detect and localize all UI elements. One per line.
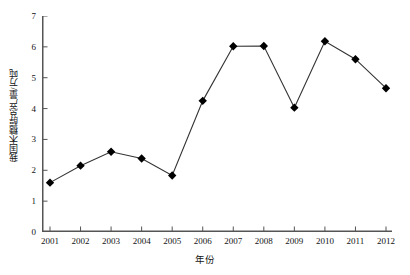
y-axis-tick-label: 1 [22,196,36,206]
data-point-marker [199,97,207,105]
y-axis-tick-label: 6 [22,42,36,52]
x-axis-tick-label: 2008 [247,236,281,246]
x-axis-tick-label: 2001 [33,236,67,246]
data-point-marker [229,42,237,50]
data-point-marker [137,154,145,162]
x-axis-tick-label: 2010 [308,236,342,246]
y-axis-tick-label: 4 [22,104,36,114]
x-axis-title: 年份 [0,252,410,266]
x-axis-tick-label: 2004 [125,236,159,246]
y-axis-tick-label: 3 [22,134,36,144]
x-axis-tick-label: 2011 [338,236,372,246]
x-axis-tick-label: 2009 [277,236,311,246]
x-axis-tick-label: 2006 [186,236,220,246]
y-axis-tick-label: 2 [22,165,36,175]
x-axis-tick-label: 2002 [64,236,98,246]
x-axis-tick-label: 2005 [155,236,189,246]
data-point-marker [107,148,115,156]
data-point-marker [168,171,176,179]
plot-area [42,16,392,232]
data-point-marker [46,178,54,186]
x-axis-tick-label: 2012 [369,236,403,246]
line-chart: 我国木糖醇总产量/万吨 01234567 2001200220032004200… [0,0,410,275]
axis-lines [42,16,392,232]
y-axis-tick-label: 7 [22,11,36,21]
data-line [50,41,386,182]
y-axis-tick-label: 5 [22,73,36,83]
data-point-marker [76,161,84,169]
data-point-marker [290,103,298,111]
data-point-marker [321,37,329,45]
data-markers [46,37,390,187]
y-axis-title: 我国木糖醇总产量/万吨 [6,0,22,232]
data-point-marker [260,42,268,50]
x-axis-tick-label: 2003 [94,236,128,246]
x-axis-tick-label: 2007 [216,236,250,246]
plot-svg [42,16,392,232]
